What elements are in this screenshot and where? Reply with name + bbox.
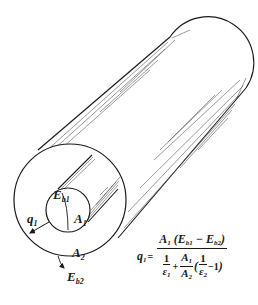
equation-numerator: A1 (Eb1 − Eb2) <box>157 232 227 249</box>
equation-denominator: 1 ε1 + A1 A2 ( 1 ε2 −1 ) <box>161 249 222 281</box>
label-eb1: Eb1 <box>53 188 70 204</box>
label-q1: q1 <box>27 212 38 228</box>
equation-lhs: q1 <box>137 249 147 264</box>
equals-sign: = <box>148 251 154 262</box>
eb2-leader-line <box>58 256 64 268</box>
term-one-over-eps2: 1 ε2 <box>199 252 207 280</box>
term-one-over-eps1: 1 ε1 <box>162 252 170 280</box>
term-area-ratio: A1 A2 <box>180 251 193 281</box>
label-a2: A2 <box>72 246 85 262</box>
lower-edge-hatching <box>124 78 246 228</box>
label-eb2: Eb2 <box>67 270 84 286</box>
equation-fraction: A1 (Eb1 − Eb2) 1 ε1 + A1 A2 ( 1 ε2 −1 ) <box>157 232 227 281</box>
upper-edge-hatching <box>45 30 190 152</box>
label-a1: A1 <box>74 212 87 228</box>
net-radiation-equation: q1 = A1 (Eb1 − Eb2) 1 ε1 + A1 A2 ( 1 ε2 … <box>137 232 227 281</box>
